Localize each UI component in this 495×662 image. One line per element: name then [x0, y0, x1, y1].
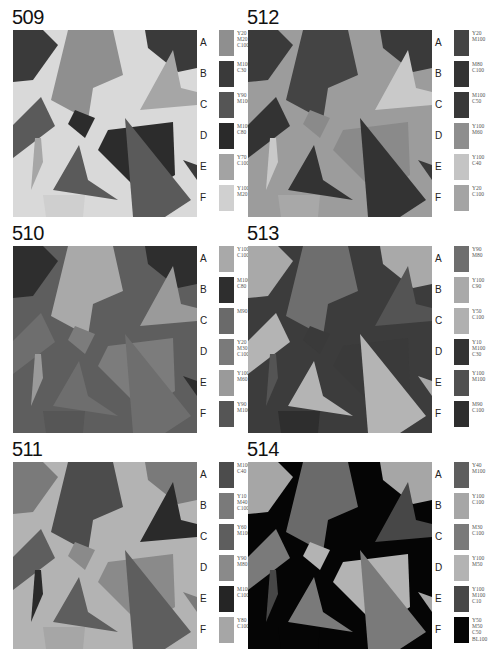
color-legend: AM100 C40BY10 M40 C100CY60 M100DY90 M80E…: [200, 462, 252, 652]
color-swatch: [219, 617, 234, 643]
cmyk-code: Y90 M80: [237, 555, 247, 567]
legend-row: BY10 M40 C100: [200, 493, 252, 519]
legend-row: AM100 C40: [200, 462, 252, 488]
legend-letter: C: [435, 99, 442, 110]
legend-letter: D: [435, 346, 442, 357]
legend-row: AY20 M100: [435, 30, 487, 56]
legend-letter: E: [435, 593, 442, 604]
legend-letter: E: [435, 377, 442, 388]
legend-letter: C: [435, 531, 442, 542]
legend-letter: A: [435, 469, 442, 480]
color-swatch: [219, 555, 234, 581]
legend-letter: D: [200, 346, 207, 357]
legend-row: CM100 C50: [435, 92, 487, 118]
panel-509: 509AY20 M20 C100BM100 C30CY90 M100DM100 …: [12, 6, 252, 224]
legend-letter: A: [435, 37, 442, 48]
color-swatch: [454, 617, 469, 643]
panel-title: 509: [12, 6, 44, 28]
composition-canvas: [248, 462, 432, 649]
panel-512: 512AY20 M100BM80 C100CM100 C50DY100 M60E…: [247, 6, 487, 224]
color-swatch: [454, 586, 469, 612]
cmyk-code: Y20 M100: [472, 30, 485, 42]
cmyk-code: Y50 C100: [472, 308, 484, 320]
legend-letter: B: [435, 500, 442, 511]
composition-artwork: [13, 30, 197, 217]
legend-letter: B: [435, 68, 442, 79]
composition-artwork: [13, 462, 197, 649]
color-swatch: [219, 370, 234, 396]
color-legend: AY40 M100BY100 C100CM30 C100DY100 M50EY1…: [435, 462, 487, 652]
legend-row: EY100 C40: [435, 154, 487, 180]
legend-row: DY100 M60: [435, 123, 487, 149]
legend-letter: F: [435, 192, 441, 203]
legend-letter: D: [435, 130, 442, 141]
legend-row: AY20 M20 C100: [200, 30, 252, 56]
legend-letter: B: [200, 68, 207, 79]
legend-letter: E: [200, 593, 207, 604]
legend-row: CM30 C100: [435, 524, 487, 550]
legend-letter: D: [200, 130, 207, 141]
panel-514: 514AY40 M100BY100 C100CM30 C100DY100 M50…: [247, 438, 487, 656]
legend-letter: B: [435, 284, 442, 295]
cmyk-code: Y50 M50 C50 BL100: [472, 617, 487, 642]
legend-letter: D: [200, 562, 207, 573]
legend-letter: C: [200, 315, 207, 326]
cmyk-code: Y100 M60: [472, 123, 484, 135]
legend-row: AY100 C100: [200, 246, 252, 272]
polygon-shape: [43, 627, 85, 649]
color-swatch: [454, 370, 469, 396]
cmyk-code: Y40 M100: [472, 462, 485, 474]
cmyk-code: Y100 M100: [472, 370, 485, 382]
color-swatch: [219, 123, 234, 149]
color-swatch: [219, 246, 234, 272]
color-swatch: [219, 154, 234, 180]
color-swatch: [454, 555, 469, 581]
color-swatch: [219, 401, 234, 427]
color-legend: AY20 M100BM80 C100CM100 C50DY100 M60EY10…: [435, 30, 487, 220]
composition-artwork: [248, 246, 432, 433]
color-swatch: [219, 462, 234, 488]
color-swatch: [454, 30, 469, 56]
color-swatch: [454, 401, 469, 427]
cmyk-code: Y100 M100 C10: [472, 586, 485, 605]
color-swatch: [219, 586, 234, 612]
legend-letter: C: [200, 99, 207, 110]
color-swatch: [454, 524, 469, 550]
legend-row: DY90 M80: [200, 555, 252, 581]
cmyk-code: Y100 C40: [472, 154, 484, 166]
legend-row: FY90 M100: [200, 401, 252, 427]
composition-canvas: [13, 462, 197, 649]
composition-artwork: [248, 30, 432, 217]
cmyk-code: Y100 C100: [472, 493, 484, 505]
color-swatch: [219, 524, 234, 550]
color-swatch: [454, 185, 469, 211]
panel-title: 512: [247, 6, 279, 28]
legend-row: CY50 C100: [435, 308, 487, 334]
legend-letter: A: [435, 253, 442, 264]
composition-canvas: [13, 30, 197, 217]
legend-row: EY100 M100: [435, 370, 487, 396]
color-swatch: [454, 339, 469, 365]
color-swatch: [219, 339, 234, 365]
color-swatch: [219, 61, 234, 87]
cmyk-code: M80 C100: [472, 61, 484, 73]
legend-letter: D: [435, 562, 442, 573]
panel-title: 510: [12, 222, 44, 244]
legend-letter: E: [435, 161, 442, 172]
legend-letter: C: [200, 531, 207, 542]
color-swatch: [454, 277, 469, 303]
legend-row: AY90 M80: [435, 246, 487, 272]
legend-row: BY100 C100: [435, 493, 487, 519]
color-swatch: [219, 277, 234, 303]
color-swatch: [454, 154, 469, 180]
legend-letter: F: [200, 192, 206, 203]
color-legend: AY100 C100BM100 C80CM90DY20 M30 C100EY10…: [200, 246, 252, 436]
legend-row: FY20 C100: [435, 185, 487, 211]
cmyk-code: Y20 C100: [472, 185, 484, 197]
legend-letter: F: [435, 624, 441, 635]
legend-letter: A: [200, 253, 207, 264]
cmyk-code: Y90 M80: [472, 246, 482, 258]
legend-letter: A: [200, 469, 207, 480]
color-swatch: [454, 308, 469, 334]
legend-row: CY90 M100: [200, 92, 252, 118]
